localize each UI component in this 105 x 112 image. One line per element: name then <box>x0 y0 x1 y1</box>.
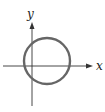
y-axis-arrow-icon <box>30 22 35 29</box>
x-axis-arrow-icon <box>86 64 93 69</box>
x-axis <box>3 64 93 69</box>
x-axis-label: x <box>96 59 103 73</box>
y-axis <box>30 22 35 106</box>
y-axis-label: y <box>26 7 34 21</box>
diagram-canvas: y x <box>0 0 105 112</box>
circle <box>24 38 70 84</box>
